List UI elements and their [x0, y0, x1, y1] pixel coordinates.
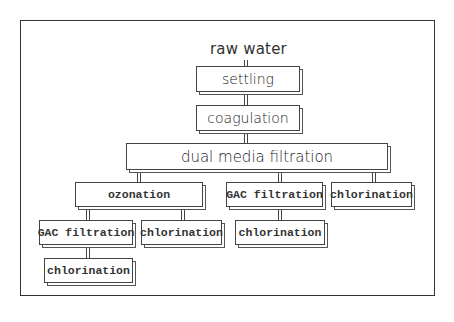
node-gac-filtration-right: GAC filtration — [226, 182, 323, 207]
node-gac-filtration-left: GAC filtration — [39, 220, 133, 245]
node-settling: settling — [196, 66, 300, 92]
raw-water-label: raw water — [210, 40, 287, 58]
cropped-caption — [0, 314, 454, 322]
node-label: dual media filtration — [181, 148, 333, 166]
node-label: ozonation — [108, 188, 170, 201]
node-label: GAC filtration — [226, 188, 323, 201]
node-chlorination-bottom-left: chlorination — [44, 258, 133, 283]
node-label: chlorination — [140, 226, 223, 239]
node-label: chlorination — [330, 188, 413, 201]
node-chlorination-mid: chlorination — [141, 220, 222, 245]
node-ozonation: ozonation — [75, 182, 203, 207]
node-coagulation: coagulation — [196, 105, 300, 131]
node-label: chlorination — [239, 226, 322, 239]
node-chlorination-right-top: chlorination — [331, 182, 412, 207]
node-label: coagulation — [207, 110, 288, 126]
node-dual-media-filtration: dual media filtration — [126, 143, 388, 170]
node-label: settling — [222, 71, 274, 87]
node-label: GAC filtration — [38, 226, 135, 239]
node-label: chlorination — [47, 264, 130, 277]
node-chlorination-right-bottom: chlorination — [235, 220, 325, 245]
